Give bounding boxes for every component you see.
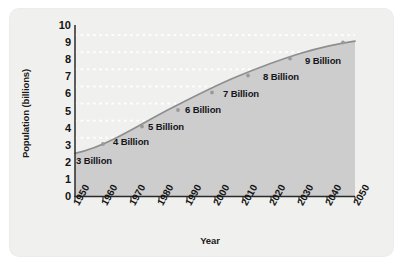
annotation-6-billion: 6 Billion	[185, 104, 221, 115]
x-tick-2000: 2000	[211, 183, 231, 208]
x-tick-2050: 2050	[351, 183, 371, 208]
annotation-3-billion: 3 Billion	[76, 155, 112, 166]
x-tick-2020: 2020	[267, 183, 287, 208]
y-axis-title: Population (billions)	[20, 44, 31, 184]
x-tick-2030: 2030	[295, 183, 315, 208]
annotation-7-billion: 7 Billion	[223, 88, 259, 99]
annotation-9-billion: 9 Billion	[305, 55, 341, 66]
x-tick-1980: 1980	[155, 183, 175, 208]
x-tick-1990: 1990	[183, 183, 203, 208]
x-tick-1950: 1950	[71, 183, 91, 208]
x-tick-1970: 1970	[127, 183, 147, 208]
x-axis-title: Year	[140, 235, 280, 246]
x-tick-1960: 1960	[99, 183, 119, 208]
x-axis-tick-labels: 1950 1960 1970 1980 1990 2000 2010 2020 …	[0, 0, 403, 265]
x-tick-2010: 2010	[239, 183, 259, 208]
annotation-4-billion: 4 Billion	[113, 136, 149, 147]
x-tick-2040: 2040	[323, 183, 343, 208]
annotation-8-billion: 8 Billion	[263, 71, 299, 82]
annotation-5-billion: 5 Billion	[148, 121, 184, 132]
